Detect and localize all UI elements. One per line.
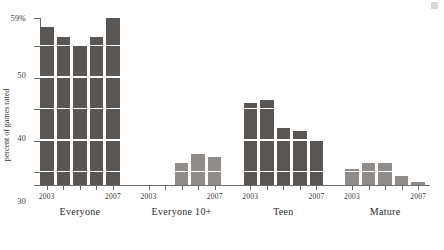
x-tick [369, 185, 370, 190]
y-axis-title: percent of games rated [2, 65, 11, 185]
x-tick [283, 185, 284, 190]
x-year-label: 2003 [242, 192, 258, 201]
chart-root: percent of games rated 59%50403020106 20… [0, 0, 444, 250]
x-year-label: 2007 [410, 192, 426, 201]
bar [260, 100, 274, 185]
x-year-label: 2003 [344, 192, 360, 201]
x-group-label: Everyone 10+ [152, 206, 212, 217]
bar [362, 163, 376, 185]
x-tick [300, 185, 301, 190]
y-tick-label: 30 [18, 196, 26, 205]
bar [106, 18, 120, 185]
bar [310, 141, 324, 185]
x-tick [418, 185, 419, 190]
bar [40, 27, 54, 185]
x-tick [198, 185, 199, 190]
bar [293, 131, 307, 185]
x-group-label: Teen [273, 206, 294, 217]
x-year-label: 2003 [39, 192, 55, 201]
x-tick [352, 185, 353, 190]
bar [395, 176, 409, 185]
x-tick [316, 185, 317, 190]
corner-mark [431, 2, 438, 9]
x-tick [250, 185, 251, 190]
bar [90, 37, 104, 185]
y-tick-label: 50 [18, 70, 26, 79]
bar [175, 163, 189, 185]
bar [73, 46, 87, 185]
x-year-label: 2007 [105, 192, 121, 201]
x-tick [96, 185, 97, 190]
x-year-label: 2007 [207, 192, 223, 201]
y-tick-label: 40 [18, 133, 26, 142]
x-tick [402, 185, 403, 190]
x-year-label: 2007 [309, 192, 325, 201]
x-tick [215, 185, 216, 190]
x-tick [113, 185, 114, 190]
x-tick [149, 185, 150, 190]
x-tick [165, 185, 166, 190]
x-axis [40, 185, 430, 186]
bar [208, 157, 222, 185]
plot-area [40, 18, 425, 185]
bar [57, 37, 71, 185]
x-group-label: Everyone [60, 206, 101, 217]
x-tick [267, 185, 268, 190]
x-tick [63, 185, 64, 190]
bar [244, 103, 258, 185]
bar [277, 128, 291, 185]
x-year-label: 2003 [141, 192, 157, 201]
x-tick [182, 185, 183, 190]
bar [345, 169, 359, 185]
y-tick-label: 59% [11, 14, 26, 23]
x-tick [80, 185, 81, 190]
bar [191, 154, 205, 186]
bar [378, 163, 392, 185]
x-tick [47, 185, 48, 190]
x-group-label: Mature [370, 206, 401, 217]
x-tick [385, 185, 386, 190]
